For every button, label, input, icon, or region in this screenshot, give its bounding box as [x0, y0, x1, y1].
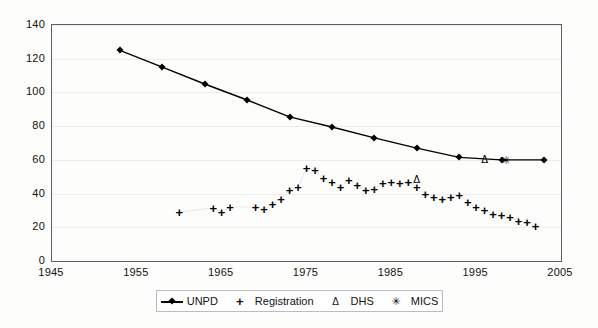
data-point-registration: + — [345, 174, 353, 187]
legend-label: Registration — [255, 295, 314, 307]
data-point-registration: + — [455, 189, 463, 202]
legend-item-dhs[interactable]: ΔDHS — [325, 295, 374, 307]
data-point-registration: + — [498, 209, 506, 222]
data-point-registration: + — [464, 196, 472, 209]
chart-figure: ++++++++++++++++++++++++++++++++++++++ΔΔ… — [0, 0, 598, 328]
data-point-dhs: Δ — [413, 175, 420, 185]
y-tick-label: 140 — [7, 18, 45, 30]
y-tick-label: 40 — [7, 187, 45, 199]
data-point-unpd — [244, 96, 251, 103]
data-point-registration: + — [379, 177, 387, 190]
data-point-registration: + — [303, 162, 311, 175]
data-point-registration: + — [523, 216, 531, 229]
data-point-unpd — [159, 64, 166, 71]
data-point-registration: + — [489, 207, 497, 220]
legend-item-mics[interactable]: ✳MICS — [385, 295, 439, 307]
data-point-registration: + — [320, 172, 328, 185]
data-point-registration: + — [269, 197, 277, 210]
y-tick-label: 0 — [7, 254, 45, 266]
data-point-registration: + — [226, 201, 234, 214]
chart-legend: UNPD+RegistrationΔDHS✳MICS — [156, 290, 443, 312]
data-point-unpd — [328, 123, 335, 130]
plot-area: ++++++++++++++++++++++++++++++++++++++ΔΔ… — [51, 24, 562, 262]
data-point-registration: + — [472, 201, 480, 214]
data-point-unpd — [371, 134, 378, 141]
legend-plus-icon: + — [229, 295, 251, 307]
data-point-registration: + — [328, 175, 336, 188]
data-point-mics: ✳ — [501, 154, 510, 165]
data-point-registration: + — [311, 163, 319, 176]
x-tick-label: 2005 — [547, 266, 572, 278]
x-tick-label: 1995 — [463, 266, 488, 278]
data-point-unpd — [286, 113, 293, 120]
data-point-registration: + — [218, 206, 226, 219]
legend-item-unpd[interactable]: UNPD — [161, 295, 218, 307]
x-tick-label: 1945 — [38, 266, 63, 278]
data-point-registration: + — [286, 184, 294, 197]
legend-triangle-icon: Δ — [325, 295, 347, 307]
data-point-unpd — [456, 154, 463, 161]
data-point-registration: + — [252, 201, 260, 214]
data-point-registration: + — [260, 202, 268, 215]
data-point-registration: + — [532, 219, 540, 232]
data-point-registration: + — [354, 179, 362, 192]
data-point-registration: + — [175, 206, 183, 219]
y-tick-label: 120 — [7, 52, 45, 64]
legend-label: DHS — [351, 295, 374, 307]
data-markers: ++++++++++++++++++++++++++++++++++++++ΔΔ… — [52, 25, 561, 261]
data-point-unpd — [413, 145, 420, 152]
data-point-registration: + — [438, 192, 446, 205]
x-tick-label: 1965 — [208, 266, 233, 278]
data-point-registration: + — [371, 182, 379, 195]
legend-label: UNPD — [187, 295, 218, 307]
legend-diamond-icon — [168, 297, 175, 304]
x-tick-label: 1955 — [123, 266, 148, 278]
data-point-registration: + — [396, 177, 404, 190]
data-point-registration: + — [362, 184, 370, 197]
data-point-registration: + — [337, 180, 345, 193]
legend-star-icon: ✳ — [385, 295, 407, 307]
data-point-registration: + — [506, 211, 514, 224]
data-point-registration: + — [277, 192, 285, 205]
y-tick-label: 20 — [7, 220, 45, 232]
y-tick-label: 80 — [7, 119, 45, 131]
data-point-unpd — [201, 80, 208, 87]
y-tick-label: 60 — [7, 153, 45, 165]
x-tick-label: 1985 — [378, 266, 403, 278]
legend-item-registration[interactable]: +Registration — [229, 295, 314, 307]
data-point-registration: + — [209, 201, 217, 214]
data-point-registration: + — [515, 214, 523, 227]
data-point-unpd — [540, 156, 547, 163]
data-point-registration: + — [421, 187, 429, 200]
data-point-registration: + — [447, 190, 455, 203]
legend-line-diamond-icon — [161, 295, 183, 307]
data-point-registration: + — [294, 180, 302, 193]
data-point-registration: + — [430, 190, 438, 203]
data-point-registration: + — [481, 204, 489, 217]
data-point-registration: + — [405, 175, 413, 188]
legend-label: MICS — [411, 295, 439, 307]
data-point-dhs: Δ — [481, 155, 488, 165]
y-tick-label: 100 — [7, 85, 45, 97]
data-point-unpd — [116, 47, 123, 54]
x-tick-label: 1975 — [293, 266, 318, 278]
data-point-registration: + — [388, 175, 396, 188]
